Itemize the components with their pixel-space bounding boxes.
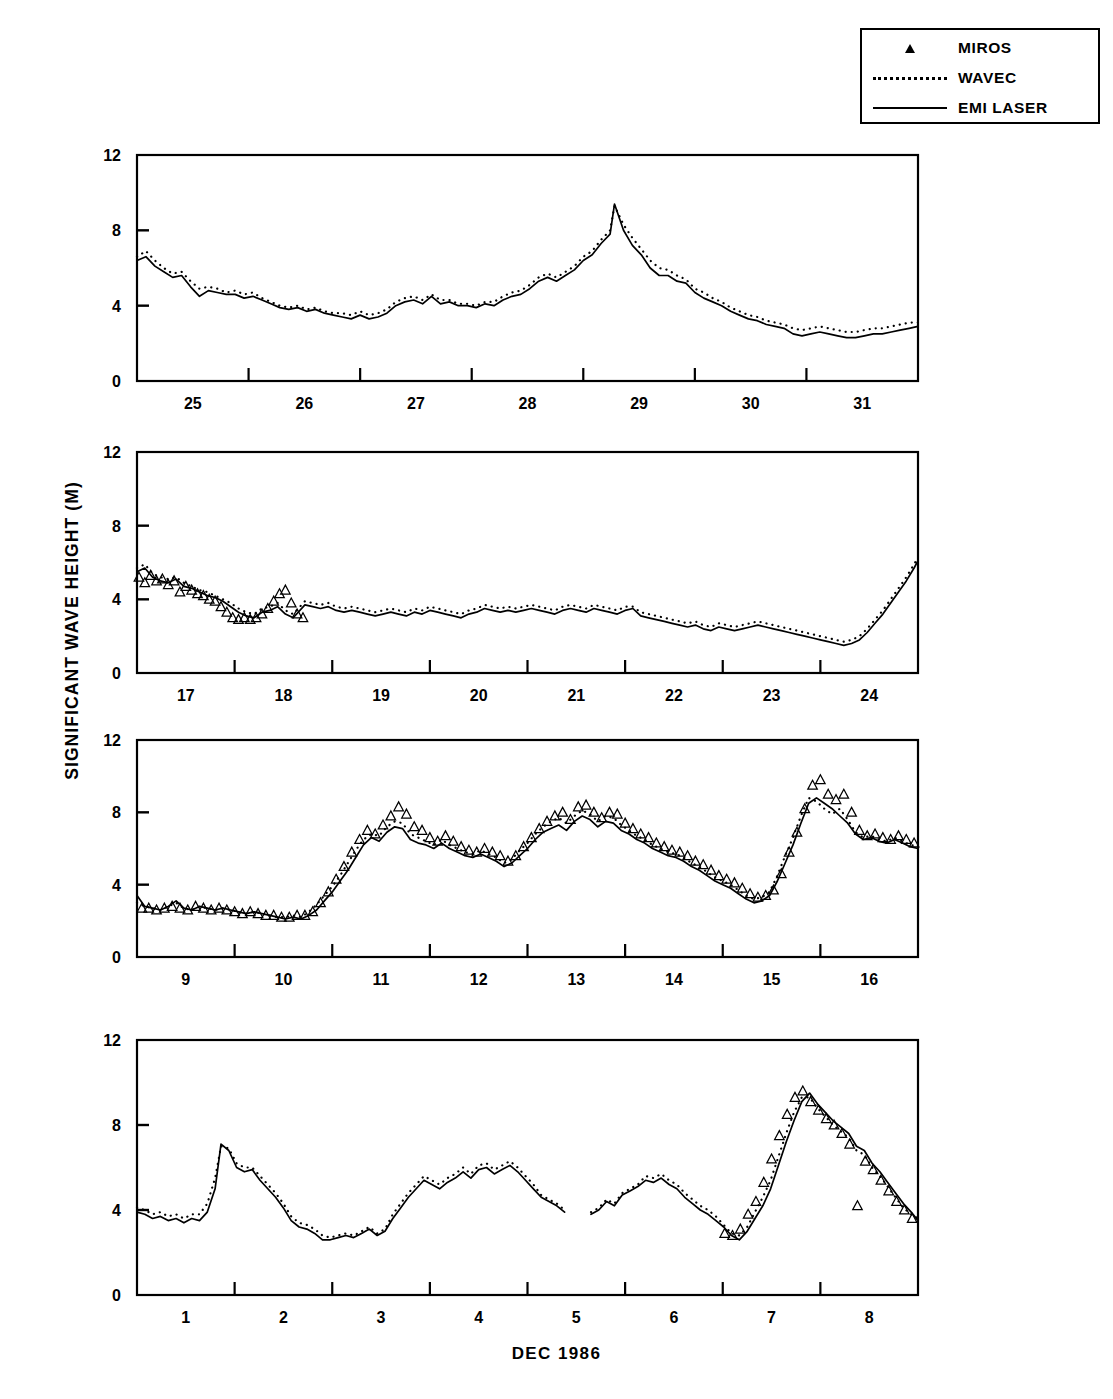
x-tick-label: 13: [567, 971, 585, 988]
miros-marker: [222, 607, 232, 616]
y-tick-label: 12: [103, 147, 121, 164]
wave-height-figure: MIROS WAVEC EMI LASER SIGNIFICANT WAVE H…: [0, 0, 1113, 1399]
y-tick-label: 4: [112, 298, 121, 315]
emi-laser-line: [137, 1144, 565, 1240]
miros-marker: [743, 1209, 753, 1218]
y-tick-label: 12: [103, 444, 121, 461]
x-tick-label: 31: [853, 395, 871, 412]
panel-0: 0481225262728293031: [103, 147, 918, 412]
emi-laser-line: [591, 1093, 918, 1240]
x-tick-label: 2: [279, 1309, 288, 1326]
legend-label-wavec: WAVEC: [958, 69, 1017, 87]
miros-marker: [286, 598, 296, 607]
miros-marker: [816, 775, 826, 784]
miros-marker: [706, 865, 716, 874]
x-tick-label: 25: [184, 395, 202, 412]
y-axis-title: SIGNIFICANT WAVE HEIGHT (M): [62, 421, 83, 841]
miros-marker: [410, 822, 420, 831]
y-tick-label: 0: [112, 373, 121, 390]
legend-entry-emi-laser: EMI LASER: [862, 92, 1098, 124]
y-tick-label: 12: [103, 1032, 121, 1049]
y-tick-label: 8: [112, 1117, 121, 1134]
y-tick-label: 0: [112, 1287, 121, 1304]
panel-3: 0481212345678: [103, 1032, 918, 1326]
miros-marker: [738, 883, 748, 892]
miros-marker: [798, 1086, 808, 1095]
miros-marker: [581, 800, 591, 809]
miros-marker: [620, 818, 630, 827]
miros-marker: [378, 820, 388, 829]
miros-marker: [870, 829, 880, 838]
x-tick-label: 12: [470, 971, 488, 988]
x-tick-label: 10: [275, 971, 293, 988]
x-tick-label: 1: [181, 1309, 190, 1326]
y-tick-label: 8: [112, 222, 121, 239]
legend-label-emi-laser: EMI LASER: [958, 99, 1048, 117]
x-tick-label: 28: [519, 395, 537, 412]
x-tick-label: 6: [669, 1309, 678, 1326]
miros-marker: [449, 836, 459, 845]
wavec-line: [137, 557, 918, 642]
miros-marker: [839, 789, 849, 798]
emi-laser-line: [137, 204, 918, 338]
legend-entry-wavec: WAVEC: [862, 62, 1098, 94]
wavec-line: [137, 798, 918, 917]
legend-label-miros: MIROS: [958, 39, 1012, 57]
miros-marker: [441, 831, 451, 840]
wavec-line: [137, 1146, 565, 1237]
panel-frame: [137, 1040, 918, 1295]
dotted-line-icon: [862, 62, 958, 94]
x-tick-label: 5: [572, 1309, 581, 1326]
x-tick-label: 19: [372, 687, 390, 704]
triangle-marker-icon: [862, 32, 958, 64]
miros-marker: [751, 1197, 761, 1206]
y-tick-label: 0: [112, 665, 121, 682]
x-tick-label: 16: [860, 971, 878, 988]
x-tick-label: 3: [377, 1309, 386, 1326]
miros-marker: [394, 802, 404, 811]
y-tick-label: 0: [112, 949, 121, 966]
panel-frame: [137, 155, 918, 381]
x-tick-label: 7: [767, 1309, 776, 1326]
x-tick-label: 30: [742, 395, 760, 412]
panel-frame: [137, 452, 918, 673]
miros-marker: [347, 847, 357, 856]
emi-laser-line: [137, 798, 918, 919]
x-tick-label: 15: [763, 971, 781, 988]
x-tick-label: 17: [177, 687, 195, 704]
x-tick-label: 8: [865, 1309, 874, 1326]
x-tick-label: 14: [665, 971, 683, 988]
panel-2: 04812910111213141516: [103, 732, 919, 988]
x-tick-label: 20: [470, 687, 488, 704]
legend-entry-miros: MIROS: [862, 32, 1098, 64]
miros-marker: [558, 807, 568, 816]
x-tick-label: 18: [275, 687, 293, 704]
miros-marker: [823, 789, 833, 798]
miros-marker: [782, 1109, 792, 1118]
miros-marker: [605, 807, 615, 816]
x-tick-label: 21: [567, 687, 585, 704]
miros-marker: [853, 1201, 863, 1210]
miros-marker: [386, 811, 396, 820]
x-tick-label: 26: [295, 395, 313, 412]
miros-marker: [175, 587, 185, 596]
y-tick-label: 4: [112, 1202, 121, 1219]
y-tick-label: 8: [112, 804, 121, 821]
y-tick-label: 4: [112, 591, 121, 608]
x-tick-label: 11: [373, 971, 390, 988]
solid-line-icon: [862, 92, 958, 124]
x-tick-label: 24: [860, 687, 878, 704]
miros-marker: [363, 825, 373, 834]
x-tick-label: 22: [665, 687, 683, 704]
y-tick-label: 12: [103, 732, 121, 749]
miros-marker: [831, 795, 841, 804]
x-tick-label: 29: [630, 395, 648, 412]
miros-marker: [847, 807, 857, 816]
panels-svg: 0481225262728293031048121718192021222324…: [0, 0, 1113, 1399]
miros-marker: [134, 572, 144, 581]
miros-marker: [759, 1177, 769, 1186]
miros-marker: [767, 1154, 777, 1163]
x-tick-label: 9: [181, 971, 190, 988]
y-tick-label: 4: [112, 877, 121, 894]
x-axis-title: DEC 1986: [0, 1344, 1113, 1364]
